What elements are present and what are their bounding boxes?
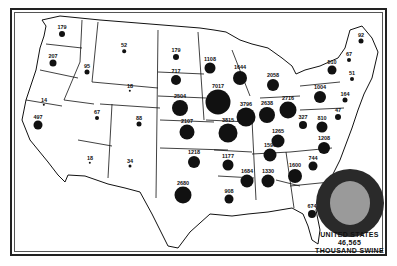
state-swine-value: 1684 [241, 168, 253, 174]
state-swine-dot [347, 58, 351, 62]
state-swine-value: 7017 [212, 83, 224, 89]
state-swine-dot [309, 162, 318, 171]
state-swine-value: 14 [41, 97, 47, 103]
state-swine-value: 2107 [181, 118, 193, 124]
state-swine-dot [172, 100, 188, 116]
state-swine-value: 18 [87, 155, 93, 161]
state-swine-dot [85, 70, 90, 75]
state-swine-dot [206, 90, 231, 115]
state-swine-value: 52 [121, 43, 127, 49]
legend-title: UNITED STATES [302, 231, 397, 239]
state-swine-value: 3815 [222, 117, 234, 123]
state-swine-dot [171, 75, 181, 85]
state-swine-value: 1004 [314, 85, 326, 91]
state-swine-dot [318, 142, 330, 154]
state-swine-value: 92 [358, 32, 364, 38]
state-swine-value: 744 [308, 155, 317, 161]
state-swine-dot [129, 165, 132, 168]
state-swine-dot [137, 122, 142, 127]
state-swine-dot [343, 98, 348, 103]
state-swine-dot [188, 156, 200, 168]
state-swine-dot [34, 121, 43, 130]
state-swine-dot [264, 149, 277, 162]
state-swine-dot [223, 160, 234, 171]
us-total-inner-circle [330, 181, 370, 225]
state-swine-value: 1218 [188, 150, 200, 156]
state-swine-value: 18 [127, 83, 133, 89]
state-swine-value: 327 [298, 115, 307, 121]
state-swine-dot [59, 31, 65, 37]
state-swine-dot [308, 210, 316, 218]
state-swine-dot [175, 187, 192, 204]
state-swine-dot [50, 60, 57, 67]
state-swine-dot [328, 66, 337, 75]
state-swine-dot [180, 125, 195, 140]
state-swine-value: 179 [57, 25, 66, 31]
state-swine-dot [219, 124, 238, 143]
state-swine-value: 3796 [240, 101, 252, 107]
state-swine-dot [350, 77, 354, 81]
state-swine-value: 1208 [318, 136, 330, 142]
us-total-legend: UNITED STATES 46,565 THOUSAND SWINE [302, 231, 397, 255]
state-swine-dot [317, 122, 328, 133]
state-swine-dot [267, 79, 279, 91]
state-swine-value: 1177 [222, 153, 234, 159]
state-swine-dot [262, 175, 275, 188]
state-swine-dot [241, 175, 254, 188]
state-swine-dot [335, 114, 341, 120]
state-swine-dot [95, 116, 99, 120]
state-swine-dot [233, 71, 247, 85]
state-swine-value: 1644 [234, 65, 246, 71]
state-swine-dot [237, 108, 256, 127]
state-swine-value: 51 [349, 71, 355, 77]
state-swine-value: 2058 [267, 73, 279, 79]
state-swine-value: 2716 [282, 95, 294, 101]
state-swine-value: 179 [171, 48, 180, 54]
state-swine-dot [205, 63, 216, 74]
state-swine-value: 1600 [289, 163, 301, 169]
state-swine-value: 717 [171, 69, 180, 75]
state-swine-value: 34 [127, 158, 133, 164]
state-swine-value: 67 [94, 110, 100, 116]
state-swine-value: 88 [136, 115, 142, 121]
state-swine-value: 1265 [272, 128, 284, 134]
state-swine-dot [359, 39, 364, 44]
state-swine-value: 47 [335, 108, 341, 114]
state-swine-value: 1330 [262, 168, 274, 174]
state-swine-dot [314, 91, 326, 103]
state-swine-value: 2638 [261, 101, 273, 107]
state-swine-value: 810 [317, 115, 326, 121]
state-swine-value: 67 [346, 52, 352, 58]
state-swine-value: 908 [224, 188, 233, 194]
state-swine-value: 1590 [264, 142, 276, 148]
state-swine-value: 497 [33, 114, 42, 120]
state-swine-dot [259, 107, 275, 123]
state-swine-value: 95 [84, 63, 90, 69]
state-swine-value: 164 [340, 91, 349, 97]
legend-unit: THOUSAND SWINE [302, 247, 397, 255]
state-swine-value: 2504 [174, 94, 186, 100]
state-swine-dot [122, 49, 126, 53]
state-swine-dot [225, 195, 234, 204]
state-swine-value: 510 [327, 59, 336, 65]
state-swine-value: 207 [48, 53, 57, 59]
state-swine-value: 2680 [177, 180, 189, 186]
state-swine-dot [288, 169, 302, 183]
state-swine-dot [173, 54, 179, 60]
legend-total: 46,565 [302, 239, 397, 247]
state-swine-dot [299, 121, 307, 129]
state-swine-value: 1108 [204, 56, 216, 62]
state-swine-dot [280, 102, 297, 119]
